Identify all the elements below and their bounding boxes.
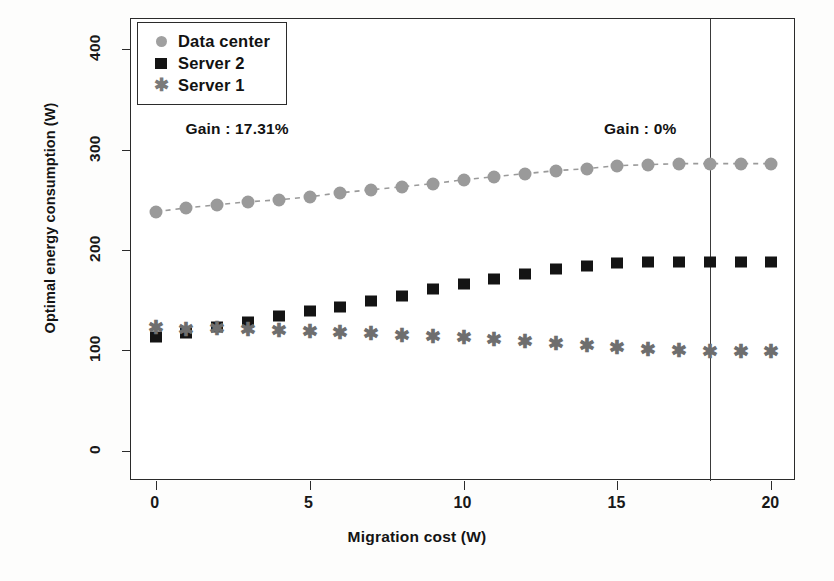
chart-annotation: Gain : 0% [604,120,676,138]
data-point: ✱ [517,334,533,350]
data-point [365,296,377,307]
legend-label-server-1: Server 1 [178,76,245,95]
data-point [765,157,778,170]
data-point [396,291,408,302]
data-point: ✱ [486,332,502,348]
y-axis-title: Optimal energy consumption (W) [42,0,58,448]
y-axis-tick-label: 400 [86,26,106,70]
data-point [149,205,162,218]
legend-label-data-center: Data center [178,32,270,51]
data-point: ✱ [148,320,164,336]
data-point [580,162,593,175]
data-point [303,190,316,203]
data-point [519,167,532,180]
data-point: ✱ [579,338,595,354]
data-point [673,257,685,268]
chart-legend: Data center Server 2 ✱ Server 1 [137,22,287,105]
data-point [272,193,285,206]
x-axis-tick [771,481,772,490]
chart-annotation: Gain : 17.31% [185,120,288,138]
data-point [211,198,224,211]
data-point: ✱ [363,326,379,342]
y-axis-tick [122,250,131,251]
data-point: ✱ [671,343,687,359]
x-axis-tick-label: 20 [740,494,800,512]
x-axis-tick-label: 10 [433,494,493,512]
data-point [581,261,593,272]
data-point [180,201,193,214]
x-axis-tick [617,481,618,490]
data-point [427,284,439,295]
data-point [611,258,623,269]
data-point [426,177,439,190]
data-point [611,159,624,172]
data-point: ✱ [271,323,287,339]
data-point [488,170,501,183]
data-point: ✱ [548,336,564,352]
y-axis-tick-label: 300 [86,127,106,171]
square-icon [148,58,174,69]
circle-icon [148,36,174,47]
data-point: ✱ [240,322,256,338]
data-point [365,183,378,196]
data-point: ✱ [209,321,225,337]
asterisk-icon: ✱ [148,78,174,92]
x-axis-tick [156,481,157,490]
data-point [734,157,747,170]
data-point: ✱ [456,330,472,346]
data-point [642,158,655,171]
y-axis-tick [122,150,131,151]
data-point [395,180,408,193]
data-point [488,274,500,285]
x-axis-tick-label: 0 [125,494,185,512]
data-point [550,264,562,275]
data-point: ✱ [425,329,441,345]
legend-label-server-2: Server 2 [178,54,245,73]
y-axis-tick-label: 200 [86,227,106,271]
data-point: ✱ [302,324,318,340]
data-point [673,157,686,170]
data-point: ✱ [702,344,718,360]
data-point [704,257,716,268]
legend-item-server-2: Server 2 [148,52,270,74]
data-point [642,257,654,268]
legend-item-server-1: ✱ Server 1 [148,74,270,96]
data-point [334,186,347,199]
x-axis-tick-label: 5 [279,494,339,512]
data-point: ✱ [609,340,625,356]
data-point [549,164,562,177]
data-point [735,257,747,268]
data-point [458,279,470,290]
chart-figure: ✱✱✱✱✱✱✱✱✱✱✱✱✱✱✱✱✱✱✱✱✱ Migration cost (W)… [0,0,834,581]
data-point [304,306,316,317]
reference-line-vertical [710,19,711,481]
data-point: ✱ [394,328,410,344]
x-axis-tick [310,481,311,490]
data-point: ✱ [332,325,348,341]
y-axis-tick [122,451,131,452]
data-point [519,269,531,280]
legend-item-data-center: Data center [148,30,270,52]
data-point: ✱ [640,342,656,358]
y-axis-tick-label: 0 [86,428,106,472]
data-point [457,173,470,186]
data-point: ✱ [178,322,194,338]
y-axis-tick [122,49,131,50]
data-point [241,195,254,208]
x-axis-tick [464,481,465,490]
data-point [703,157,716,170]
y-axis-tick [122,350,131,351]
data-point: ✱ [733,344,749,360]
data-point [765,257,777,268]
y-axis-tick-label: 100 [86,327,106,371]
x-axis-title: Migration cost (W) [0,528,834,546]
x-axis-tick-label: 15 [586,494,646,512]
data-point [334,302,346,313]
data-point: ✱ [763,344,779,360]
